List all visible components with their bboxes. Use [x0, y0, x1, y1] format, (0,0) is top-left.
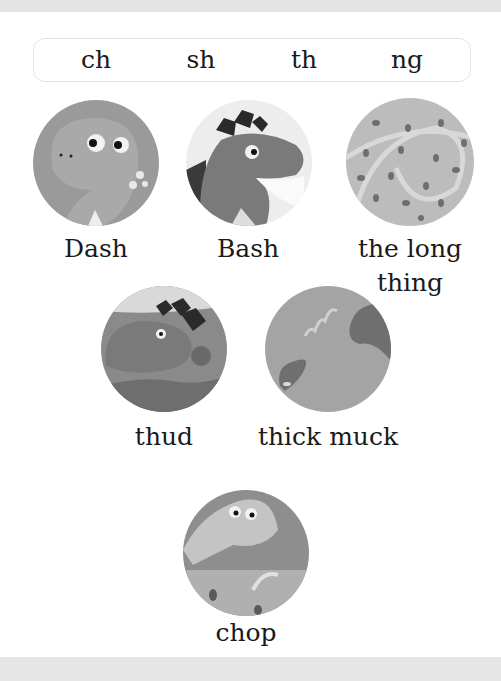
dinosaur-dash-icon [33, 100, 159, 226]
thick-muck-picture [265, 286, 391, 412]
letter-sound-th: th [291, 45, 317, 75]
letter-sound-ch: ch [81, 45, 111, 75]
page-bottom-edge [0, 657, 501, 681]
dinosaur-chop-icon [183, 490, 309, 616]
spotted-long-thing-icon [346, 98, 474, 226]
dinosaur-bash-icon [186, 100, 312, 226]
dash-label: Dash [64, 234, 128, 264]
long-thing-label-line1: the long [358, 234, 462, 264]
thud-picture [101, 286, 227, 412]
bash-picture [186, 100, 312, 226]
thud-label: thud [135, 422, 193, 452]
thick-muck-icon [265, 286, 391, 412]
chop-label: chop [215, 618, 276, 648]
page-top-edge [0, 0, 501, 12]
chop-picture [183, 490, 309, 616]
bash-label: Bash [217, 234, 279, 264]
letter-sound-ng: ng [391, 45, 423, 75]
letter-sounds-box: ch sh th ng [33, 38, 471, 82]
dash-picture [33, 100, 159, 226]
letter-sound-sh: sh [187, 45, 216, 75]
thick-muck-label: thick muck [258, 422, 398, 452]
long-thing-picture [346, 98, 474, 226]
dinosaur-thud-icon [101, 286, 227, 412]
long-thing-label-line2: thing [377, 268, 443, 298]
